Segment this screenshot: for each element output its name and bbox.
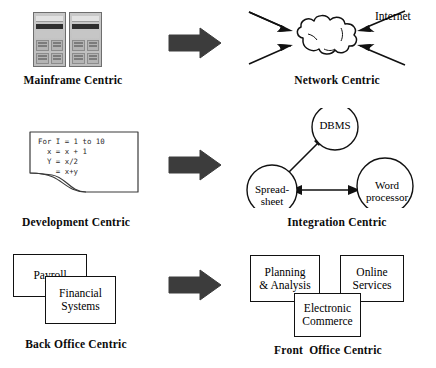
- cabinet-gap: [72, 31, 99, 38]
- caption-integration-centric: Integration Centric: [264, 216, 410, 228]
- box-financial-systems: Financial Systems: [45, 276, 116, 324]
- right-block-arrow-icon: [167, 26, 223, 60]
- code-line-2: x = x + 1: [38, 147, 87, 157]
- cabinet-dark-band: [72, 24, 99, 29]
- right-block-arrow-icon: [167, 148, 223, 182]
- cabinet-panel: [36, 40, 49, 51]
- cabinet-panel-grid: [36, 40, 63, 64]
- cabinet-top-strip: [36, 16, 63, 22]
- node-label-spreadsheet: Spread- sheet: [249, 184, 295, 207]
- node-label-word-processor: Word processor: [362, 180, 412, 203]
- code-line-1: For I = 1 to 10: [38, 137, 105, 147]
- caption-network-centric: Network Centric: [272, 74, 402, 86]
- cloud-icon: [297, 16, 356, 54]
- code-line-4: = x+y: [38, 167, 78, 177]
- cabinet-panel: [87, 53, 100, 64]
- cabinet-panel: [36, 53, 49, 64]
- cabinet-panel: [72, 40, 85, 51]
- mainframe-cabinet: [69, 12, 102, 67]
- caption-front-office-centric: Front Office Centric: [248, 344, 408, 356]
- cabinet-panel: [72, 53, 85, 64]
- mainframe-cabinet: [33, 12, 66, 67]
- internet-label: Internet: [375, 10, 411, 22]
- caption-mainframe-centric: Mainframe Centric: [8, 74, 138, 86]
- node-label-dbms: DBMS: [312, 120, 358, 132]
- diagram-canvas: Mainframe Centric: [0, 0, 436, 368]
- cabinet-panel: [87, 40, 100, 51]
- code-line-3: Y = x/2: [38, 157, 78, 167]
- cabinet-dark-band: [36, 24, 63, 29]
- cabinet-top-strip: [72, 16, 99, 22]
- box-electronic-commerce: Electronic Commerce: [294, 293, 361, 337]
- cabinet-panel: [51, 40, 64, 51]
- mainframe-cabinets-icon: [33, 12, 102, 67]
- right-block-arrow-icon: [167, 268, 223, 302]
- caption-development-centric: Development Centric: [6, 216, 146, 228]
- cabinet-panel-grid: [72, 40, 99, 64]
- cabinet-panel: [51, 53, 64, 64]
- caption-back-office-centric: Back Office Centric: [6, 338, 146, 350]
- cabinet-gap: [36, 31, 63, 38]
